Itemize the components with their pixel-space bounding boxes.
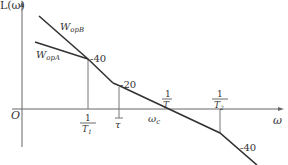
x-axis-label: ω bbox=[273, 114, 282, 127]
break-freq-1-T: 1 T bbox=[162, 89, 172, 110]
crossover-label: ωc bbox=[148, 113, 160, 126]
axes bbox=[12, 4, 280, 147]
slope-label-3: -40 bbox=[240, 142, 256, 153]
bode-diagram: L(ω) ω O WopB WopA -40 -20 -40 1 T1 τ 1 … bbox=[0, 0, 288, 165]
curve-shared bbox=[113, 83, 257, 165]
wopb-label: WopB bbox=[60, 21, 84, 34]
svg-text:T: T bbox=[163, 100, 170, 110]
svg-text:1: 1 bbox=[85, 113, 91, 123]
x-axis-arrow-icon bbox=[278, 107, 284, 111]
slope-label-1: -40 bbox=[90, 53, 106, 64]
break-freq-tau: τ bbox=[115, 119, 121, 130]
break-freq-1-T1: 1 T1 bbox=[80, 113, 96, 135]
svg-text:1: 1 bbox=[217, 89, 223, 99]
curves bbox=[35, 16, 257, 165]
svg-text:T1: T1 bbox=[82, 124, 92, 135]
origin-label: O bbox=[11, 109, 20, 122]
slope-label-2: -20 bbox=[120, 79, 136, 90]
wopa-label: WopA bbox=[36, 49, 60, 62]
svg-text:T2: T2 bbox=[214, 100, 224, 111]
svg-text:1: 1 bbox=[165, 89, 171, 99]
y-axis-label: L(ω) bbox=[0, 0, 25, 12]
break-freq-1-T2: 1 T2 bbox=[212, 89, 228, 111]
